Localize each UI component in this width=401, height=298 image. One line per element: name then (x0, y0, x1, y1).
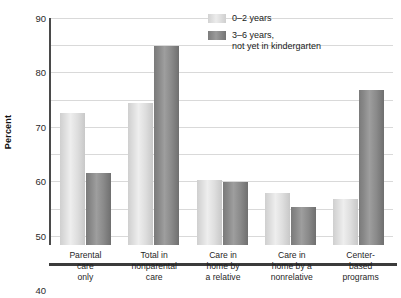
legend-item: 3–6 years, not yet in kindergarten (208, 30, 321, 53)
x-axis-tick-labels: Parental care onlyTotal in nonparental c… (51, 250, 395, 283)
legend-item: 0–2 years (208, 13, 321, 25)
x-axis-tick-label: Parental care only (51, 250, 120, 283)
bar-chart: Percent 0102030405060708090 Parental car… (0, 0, 401, 298)
y-axis-tick-label: 60 (35, 176, 46, 187)
bar-group (51, 18, 119, 245)
bar (128, 103, 153, 245)
x-axis-tick-label: Care in home by a relative (189, 250, 258, 283)
legend-label: 3–6 years, not yet in kindergarten (232, 30, 321, 53)
y-axis-tick-label: 70 (35, 121, 46, 132)
bar (291, 207, 316, 245)
bar (359, 90, 384, 245)
bar (154, 46, 179, 245)
x-axis-tick-label: Total in nonparental care (120, 250, 189, 283)
y-axis-tick-label: 80 (35, 67, 46, 78)
legend: 0–2 years3–6 years, not yet in kindergar… (208, 13, 321, 53)
bar (333, 199, 358, 245)
y-axis-tick-label: 90 (35, 13, 46, 24)
y-axis-tick-label: 50 (35, 230, 46, 241)
bar (60, 113, 85, 245)
y-axis-tick-label: 40 (35, 285, 46, 296)
bar-group (119, 18, 187, 245)
legend-label: 0–2 years (232, 13, 272, 25)
y-axis-title-text: Percent (3, 115, 13, 149)
y-axis-title: Percent (0, 0, 16, 264)
legend-swatch (208, 14, 226, 23)
x-axis-tick-label: Care in home by a nonrelative (257, 250, 326, 283)
bar-group (325, 18, 393, 245)
x-axis-tick-label: Center- based programs (326, 250, 395, 283)
bar (223, 182, 248, 245)
bar (197, 180, 222, 245)
bar (86, 173, 111, 245)
legend-swatch (208, 31, 226, 40)
bar (265, 193, 290, 245)
